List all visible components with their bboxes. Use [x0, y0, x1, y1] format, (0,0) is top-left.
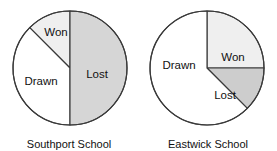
slice-label-drawn: Drawn — [24, 75, 57, 87]
southport-pie-svg: Won Drawn Lost — [0, 0, 138, 136]
pie-chart-figure: Won Drawn Lost Southport School Won Lost… — [0, 0, 277, 151]
slice-label-lost: Lost — [214, 89, 237, 101]
southport-slices — [13, 11, 127, 125]
slice-label-won: Won — [44, 26, 67, 38]
chart-eastwick: Won Lost Drawn Eastwick School — [139, 0, 277, 151]
slice-label-drawn: Drawn — [162, 59, 195, 71]
slice-label-lost: Lost — [86, 68, 109, 80]
slice-label-won: Won — [221, 51, 244, 63]
chart-southport: Won Drawn Lost Southport School — [0, 0, 138, 151]
chart-caption-eastwick: Eastwick School — [139, 138, 277, 151]
chart-caption-southport: Southport School — [0, 138, 138, 151]
eastwick-pie-svg: Won Lost Drawn — [139, 0, 277, 136]
